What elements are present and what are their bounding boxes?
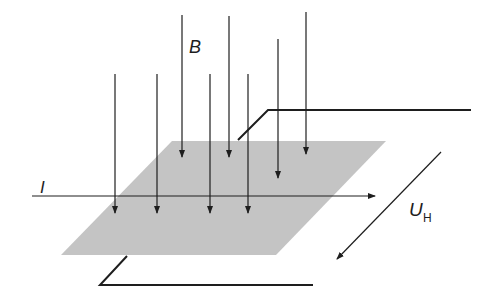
conductor-plate [61,141,386,255]
bottom-wire [100,256,313,285]
label-hall-voltage-subscript: H [423,211,432,225]
label-magnetic-field-b: B [189,37,201,57]
label-current-i: I [40,178,45,197]
label-hall-voltage-u: U [409,199,423,220]
top-wire [238,110,471,140]
hall-effect-diagram: B I U H [0,0,496,304]
